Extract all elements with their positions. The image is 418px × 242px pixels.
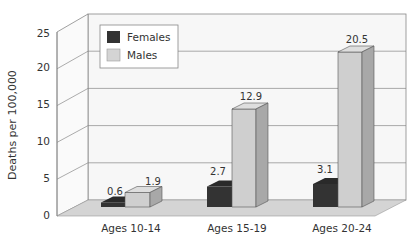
y-tick: 10 <box>37 135 50 147</box>
x-axis-labels: Ages 10-14 Ages 15-19 Ages 20-24 <box>101 222 372 234</box>
value-label: 0.6 <box>107 186 123 197</box>
y-axis-label: Deaths per 100,000 <box>6 70 19 180</box>
value-label: 20.5 <box>346 34 368 45</box>
legend-swatch-females <box>107 31 120 43</box>
value-label: 3.1 <box>317 164 333 175</box>
y-tick: 0 <box>43 209 50 221</box>
value-label: 2.7 <box>210 166 226 177</box>
chart: 0 5 10 15 20 25 Deaths per 100,000 0.6 1… <box>0 0 418 242</box>
value-label: 1.9 <box>145 176 161 187</box>
legend-label-males: Males <box>127 49 157 61</box>
side-wall <box>57 14 88 216</box>
y-tick: 15 <box>37 98 50 110</box>
legend-swatch-males <box>107 49 120 61</box>
y-tick: 20 <box>37 61 50 73</box>
legend-label-females: Females <box>127 31 170 43</box>
category-label: Ages 10-14 <box>101 222 161 234</box>
legend: Females Males <box>100 25 178 68</box>
value-label: 12.9 <box>240 91 262 102</box>
y-tick: 5 <box>43 172 50 184</box>
y-tick: 25 <box>37 27 50 39</box>
category-label: Ages 20-24 <box>312 222 372 234</box>
category-label: Ages 15-19 <box>207 222 267 234</box>
y-axis-ticks: 0 5 10 15 20 25 <box>37 27 50 221</box>
